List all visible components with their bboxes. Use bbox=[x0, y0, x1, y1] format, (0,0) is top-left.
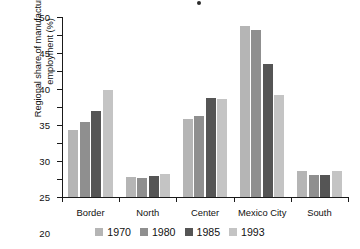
bar-center-1993 bbox=[217, 99, 227, 197]
legend-swatch-icon bbox=[95, 228, 103, 236]
legend-swatch-icon bbox=[229, 228, 237, 236]
legend-item-1980[interactable]: 1980 bbox=[140, 227, 176, 238]
legend-item-1985[interactable]: 1985 bbox=[185, 227, 221, 238]
x-axis-line bbox=[62, 197, 349, 198]
bar-south-1980 bbox=[309, 175, 319, 197]
bar-mexico-city-1993 bbox=[274, 95, 284, 197]
y-tick: 5 bbox=[57, 179, 62, 180]
legend-swatch-icon bbox=[185, 228, 193, 236]
legend-label: 1993 bbox=[241, 227, 265, 238]
page-speck-artifact bbox=[197, 1, 201, 5]
bar-north-1985 bbox=[149, 176, 159, 197]
y-axis-line bbox=[62, 17, 63, 198]
bar-border-1985 bbox=[91, 111, 101, 197]
x-tick bbox=[234, 197, 235, 202]
x-tick bbox=[176, 197, 177, 202]
legend-label: 1970 bbox=[107, 227, 131, 238]
y-tick-label: 50 bbox=[39, 12, 50, 23]
bar-center-1980 bbox=[194, 116, 204, 197]
y-tick: 25 bbox=[57, 107, 62, 108]
bar-north-1980 bbox=[137, 178, 147, 197]
x-axis-label-north: North bbox=[136, 207, 159, 218]
x-tick bbox=[291, 197, 292, 202]
bar-mexico-city-1980 bbox=[251, 30, 261, 197]
bar-south-1970 bbox=[297, 171, 307, 197]
x-axis-label-center: Center bbox=[191, 207, 219, 218]
bar-center-1970 bbox=[183, 119, 193, 197]
y-tick: 10 bbox=[57, 161, 62, 162]
y-tick: 45 bbox=[57, 35, 62, 36]
bar-south-1993 bbox=[332, 171, 342, 197]
x-axis-label-border: Border bbox=[77, 207, 105, 218]
legend-label: 1985 bbox=[197, 227, 221, 238]
x-tick bbox=[119, 197, 120, 202]
y-tick: 30 bbox=[57, 89, 62, 90]
bar-chart: Regional share of manufacturing employme… bbox=[0, 0, 360, 249]
bar-border-1980 bbox=[80, 122, 90, 197]
legend-swatch-icon bbox=[140, 228, 148, 236]
y-tick: 35 bbox=[57, 71, 62, 72]
legend-label: 1980 bbox=[152, 227, 176, 238]
y-tick-label: 30 bbox=[39, 156, 50, 167]
y-tick-label: 45 bbox=[39, 48, 50, 59]
bar-north-1993 bbox=[160, 174, 170, 197]
bar-mexico-city-1970 bbox=[240, 26, 250, 197]
x-axis-label-south: South bbox=[307, 207, 332, 218]
y-tick-label: 35 bbox=[39, 120, 50, 131]
bar-south-1985 bbox=[320, 175, 330, 197]
x-axis-label-mexico-city: Mexico City bbox=[238, 207, 286, 218]
chart-legend: 1970198019851993 bbox=[0, 227, 360, 238]
y-tick-label: 25 bbox=[39, 192, 50, 203]
y-tick: 40 bbox=[57, 53, 62, 54]
bar-border-1970 bbox=[68, 130, 78, 197]
bar-mexico-city-1985 bbox=[263, 64, 273, 197]
bar-north-1970 bbox=[126, 177, 136, 197]
x-tick bbox=[348, 197, 349, 202]
y-tick: 20 bbox=[57, 125, 62, 126]
legend-item-1993[interactable]: 1993 bbox=[229, 227, 265, 238]
bar-center-1985 bbox=[206, 98, 216, 197]
y-tick: 50 bbox=[57, 17, 62, 18]
legend-item-1970[interactable]: 1970 bbox=[95, 227, 131, 238]
y-tick: 15 bbox=[57, 143, 62, 144]
plot-area: 05101520253035404550 BorderNorthCenterMe… bbox=[62, 17, 348, 197]
bar-border-1993 bbox=[103, 90, 113, 197]
y-tick-label: 40 bbox=[39, 84, 50, 95]
x-tick bbox=[62, 197, 63, 202]
